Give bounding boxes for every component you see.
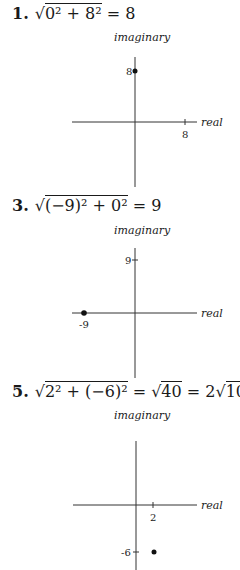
point-marker bbox=[152, 550, 157, 555]
complex-plane-5: 2 -6 real bbox=[0, 0, 240, 570]
real-axis-label: real bbox=[201, 499, 223, 512]
x-tick-label: 2 bbox=[150, 512, 156, 523]
y-tick-label: -6 bbox=[121, 547, 131, 558]
